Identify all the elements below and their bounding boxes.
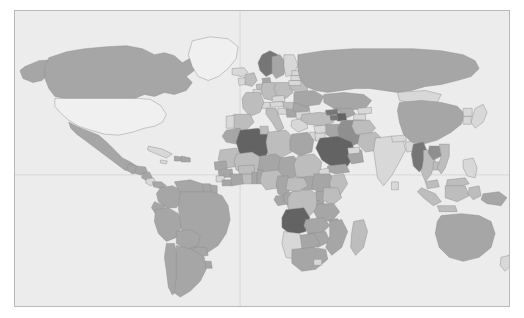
country-ukraine <box>294 90 324 106</box>
country-india <box>374 136 406 186</box>
country-malaysia <box>425 180 439 189</box>
countries-group <box>20 37 509 297</box>
country-indonesia-java <box>437 206 457 212</box>
country-china <box>397 100 465 144</box>
country-sri-lanka <box>391 182 398 190</box>
country-russia <box>298 49 479 93</box>
country-indonesia-sumatra <box>417 188 441 206</box>
map-plot-frame <box>14 10 510 307</box>
country-south-africa <box>292 247 328 271</box>
country-japan <box>471 104 487 128</box>
country-greenland <box>188 37 238 81</box>
country-indonesia-borneo <box>445 186 469 202</box>
country-dominican-republic <box>181 156 190 162</box>
country-egypt <box>290 132 314 156</box>
country-armenia <box>330 115 338 120</box>
country-new-zealand <box>500 255 509 271</box>
country-australia <box>435 214 495 262</box>
country-indonesia-sulawesi <box>468 186 481 200</box>
country-haiti <box>174 156 181 161</box>
country-lesotho <box>314 259 322 265</box>
country-united-arab-emirates <box>348 147 360 154</box>
country-georgia <box>326 109 338 115</box>
country-ireland <box>238 78 245 86</box>
country-south-korea <box>463 116 471 124</box>
country-kenya <box>323 188 342 206</box>
world-map-svg <box>15 11 509 306</box>
country-togo <box>252 172 257 184</box>
country-kyrgyzstan <box>358 107 372 114</box>
country-cuba <box>147 146 172 158</box>
country-ghana <box>242 174 252 184</box>
country-jamaica <box>160 160 167 164</box>
country-france <box>242 92 264 116</box>
country-north-korea <box>463 108 472 116</box>
country-papua-new-guinea <box>481 192 507 206</box>
world-map-figure <box>0 0 524 318</box>
country-canada <box>45 46 196 99</box>
country-ivory-coast <box>230 174 244 186</box>
country-senegal <box>214 161 227 170</box>
country-portugal <box>226 115 234 128</box>
country-madagascar <box>351 220 368 256</box>
country-lithuania <box>289 81 301 86</box>
country-liberia <box>222 180 232 186</box>
country-united-states <box>55 98 167 135</box>
country-tajikistan <box>354 114 366 120</box>
country-austria <box>270 101 284 107</box>
country-nepal <box>391 135 406 142</box>
